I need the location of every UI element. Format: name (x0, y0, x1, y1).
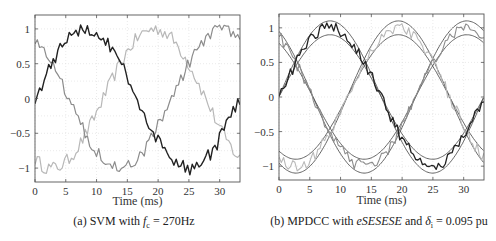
y-tick-label: 0.5 (260, 56, 274, 68)
y-tick-label: 1 (269, 22, 275, 34)
caption-b-mid: and (402, 214, 425, 228)
panel-b: 05101520253010.50−0.5−1 Time (ms) (b) MP… (0, 0, 496, 241)
caption-b-seq: eSESESE (357, 214, 402, 228)
caption-b-rest: = 0.095 pu (433, 214, 488, 228)
y-tick-label: 0 (269, 91, 275, 103)
x-axis-title-b: Time (ms) (279, 193, 484, 208)
y-tick-label: −1 (262, 160, 274, 172)
caption-b-prefix: (b) MPDCC with (270, 214, 356, 228)
chart-b: 05101520253010.50−0.5−1 (0, 0, 496, 200)
y-tick-label: −0.5 (254, 126, 274, 138)
caption-b: (b) MPDCC with eSESESE and δi = 0.095 pu (262, 214, 496, 230)
